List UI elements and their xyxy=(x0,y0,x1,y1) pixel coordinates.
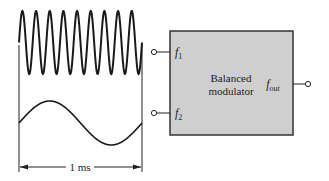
high-frequency-waveform xyxy=(19,11,142,74)
block-label-line1: Balanced xyxy=(211,72,252,84)
arrowhead-right-icon xyxy=(133,165,141,170)
output-terminal-icon xyxy=(305,81,310,86)
low-frequency-waveform xyxy=(19,101,142,145)
balanced-modulator-diagram: 1 ms Balanced modulator f1 f2 fout xyxy=(0,0,329,181)
time-span-label: 1 ms xyxy=(69,161,90,173)
input-f2-terminal-icon xyxy=(151,110,156,115)
input-f1-terminal-icon xyxy=(151,49,156,54)
block-label-line2: modulator xyxy=(208,85,254,97)
arrowhead-left-icon xyxy=(20,165,28,170)
